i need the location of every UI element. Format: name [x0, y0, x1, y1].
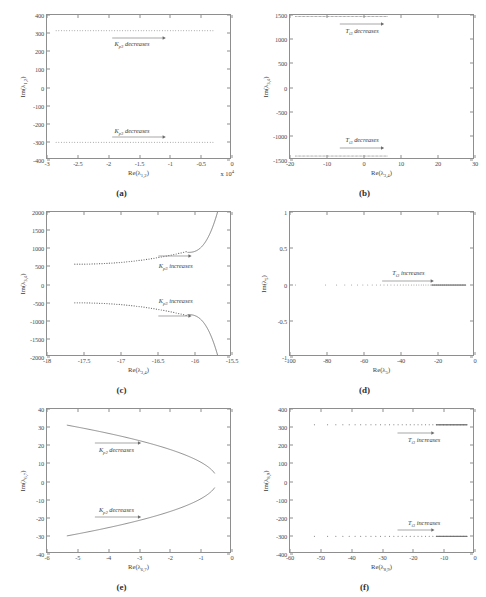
annotation-label: Kp3 decreases: [115, 40, 150, 49]
x-tick-mark: [77, 15, 78, 18]
y-tick-label: -2000: [30, 354, 44, 361]
annotation-arrow: [398, 431, 435, 435]
x-tick-mark: [401, 155, 402, 158]
y-tick-mark: [47, 427, 50, 428]
y-tick-label: -1500: [30, 335, 44, 342]
y-tick-mark: [47, 51, 50, 52]
panel-caption: (e): [117, 582, 127, 592]
x-tick-mark: [139, 409, 140, 412]
x-tick-mark: [108, 15, 109, 18]
y-tick-label: 0: [41, 281, 44, 288]
x-tick-mark: [413, 409, 414, 412]
y-tick-label: -300: [276, 532, 287, 539]
y-tick-mark: [47, 338, 50, 339]
y-tick-mark: [470, 445, 473, 446]
annotation-label: Ti3 decreases: [346, 136, 379, 145]
x-tick-mark: [139, 155, 140, 158]
annotation-label: Kp3 increases: [159, 262, 193, 271]
y-tick-label: 1000: [32, 245, 44, 252]
plot-axes: -400-300-200-1000100200300400-60-50-40-3…: [289, 408, 474, 553]
x-tick-label: -50: [317, 554, 325, 561]
y-tick-mark: [227, 320, 230, 321]
x-tick-mark: [232, 549, 233, 552]
x-axis-label: Re(λ5): [373, 366, 390, 375]
x-tick-label: -10: [323, 160, 331, 167]
x-tick-mark: [444, 549, 445, 552]
y-tick-mark: [47, 33, 50, 34]
x-tick-label: -4: [106, 554, 111, 561]
y-tick-label: 0: [284, 478, 287, 485]
x-tick-mark: [232, 409, 233, 412]
y-tick-mark: [47, 69, 50, 70]
y-tick-mark: [290, 135, 293, 136]
x-tick-label: -18: [43, 357, 51, 364]
y-tick-mark: [227, 445, 230, 446]
x-tick-mark: [327, 15, 328, 18]
figure-root: -400-300-200-1000100200300400-3-2.5-2-1.…: [0, 0, 486, 597]
x-tick-mark: [195, 212, 196, 215]
x-tick-label: 10: [398, 160, 404, 167]
y-tick-label: -30: [36, 532, 44, 539]
x-tick-label: 0: [363, 160, 366, 167]
x-tick-mark: [47, 549, 48, 552]
y-tick-mark: [47, 481, 50, 482]
y-tick-label: 2000: [32, 209, 44, 216]
y-tick-mark: [227, 230, 230, 231]
y-tick-mark: [227, 517, 230, 518]
y-tick-mark: [227, 69, 230, 70]
y-tick-mark: [290, 39, 293, 40]
x-tick-mark: [158, 212, 159, 215]
plot-axes: -400-300-200-1000100200300400-3-2.5-2-1.…: [46, 14, 231, 159]
y-tick-label: 200: [278, 442, 287, 449]
plot-axes: -1500-1000-500050010001500-20-100102030R…: [289, 14, 474, 159]
y-tick-mark: [227, 33, 230, 34]
x-tick-mark: [438, 212, 439, 215]
y-tick-label: 100: [278, 460, 287, 467]
x-tick-label: 0: [474, 554, 477, 561]
y-tick-mark: [290, 427, 293, 428]
y-tick-mark: [470, 284, 473, 285]
y-tick-mark: [47, 230, 50, 231]
y-tick-label: 0: [284, 84, 287, 91]
y-tick-mark: [47, 123, 50, 124]
annotation-arrow: [95, 515, 141, 519]
x-tick-mark: [139, 15, 140, 18]
y-tick-mark: [290, 111, 293, 112]
y-axis-label: Im(λ1,2): [19, 76, 28, 97]
x-tick-mark: [290, 212, 291, 215]
y-tick-mark: [470, 409, 473, 410]
x-tick-mark: [232, 155, 233, 158]
annotation-arrow: [382, 279, 434, 283]
y-tick-label: -200: [276, 514, 287, 521]
x-tick-mark: [121, 212, 122, 215]
y-tick-label: 0: [41, 478, 44, 485]
plot-curves: [290, 15, 473, 158]
x-tick-mark: [413, 549, 414, 552]
y-tick-label: 20: [38, 442, 44, 449]
x-tick-mark: [84, 352, 85, 355]
x-tick-label: -15.5: [226, 357, 238, 364]
x-tick-label: -17: [117, 357, 125, 364]
x-tick-mark: [47, 155, 48, 158]
x-tick-mark: [108, 409, 109, 412]
x-tick-mark: [364, 212, 365, 215]
y-tick-mark: [227, 409, 230, 410]
x-tick-label: -20: [434, 357, 442, 364]
x-tick-mark: [170, 549, 171, 552]
x-tick-label: -3: [45, 160, 50, 167]
y-tick-mark: [470, 320, 473, 321]
panel-a: -400-300-200-1000100200300400-3-2.5-2-1.…: [0, 0, 243, 199]
y-tick-label: -100: [276, 496, 287, 503]
x-tick-mark: [47, 212, 48, 215]
x-tick-mark: [201, 549, 202, 552]
y-tick-label: -1000: [273, 132, 287, 139]
y-tick-mark: [290, 63, 293, 64]
x-tick-mark: [475, 15, 476, 18]
x-tick-label: 0: [231, 160, 234, 167]
x-tick-label: 0: [231, 554, 234, 561]
y-tick-mark: [47, 445, 50, 446]
y-tick-mark: [47, 284, 50, 285]
y-tick-mark: [290, 463, 293, 464]
x-axis-label: Re(λ3,4): [128, 366, 149, 375]
x-tick-label: -2.5: [73, 160, 82, 167]
